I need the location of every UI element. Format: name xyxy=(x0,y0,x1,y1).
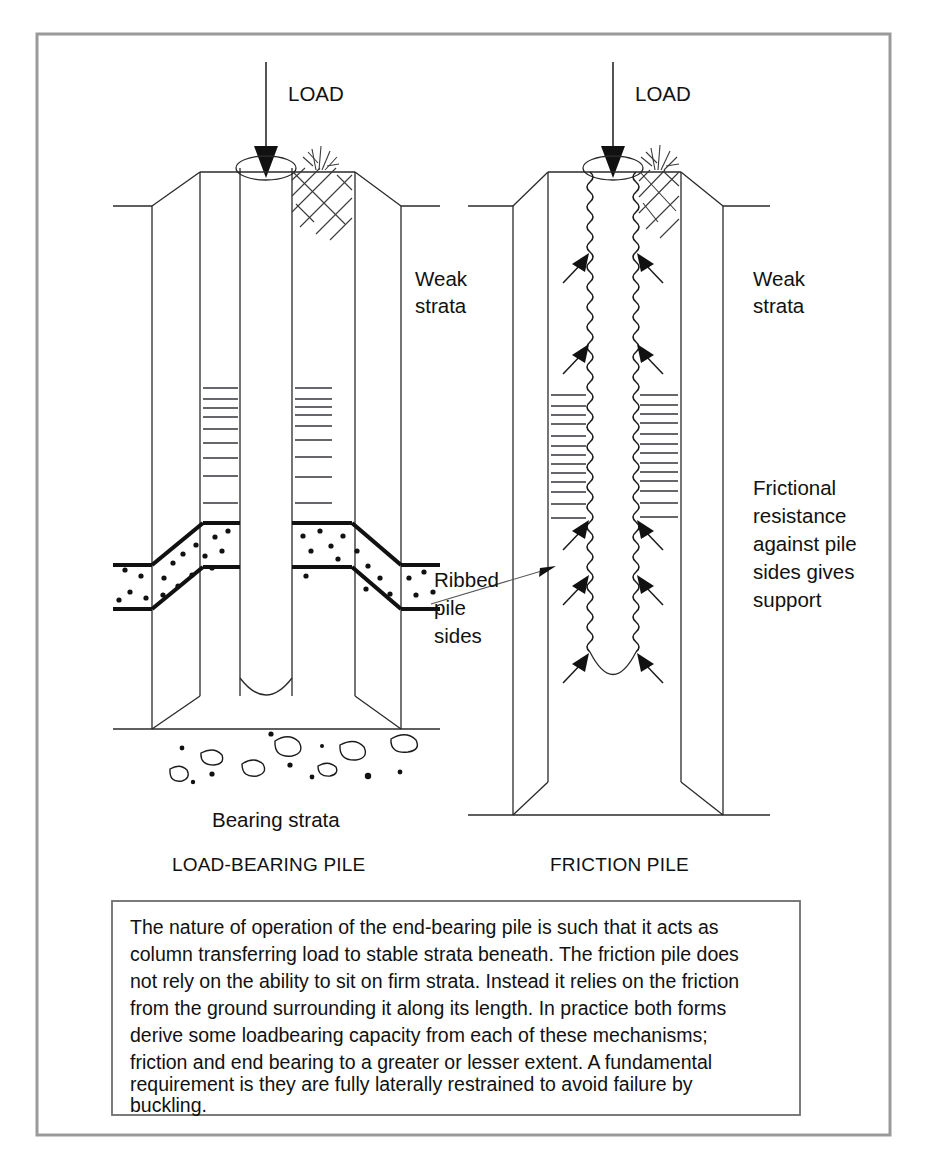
bearing-strata-label: Bearing strata xyxy=(212,808,340,831)
caption-line-2: column transferring load to stable strat… xyxy=(130,943,739,965)
pile-diagram-svg: LOAD xyxy=(0,0,925,1162)
caption-line-7: requirement is they are fully laterally … xyxy=(130,1073,693,1095)
frictional-label-line2: resistance xyxy=(753,504,846,527)
ribbed-label-line3: sides xyxy=(434,624,482,647)
frictional-label-line1: Frictional xyxy=(753,476,836,499)
caption-line-6: friction and end bearing to a greater or… xyxy=(130,1051,712,1073)
caption-line-5: derive some loadbearing capacity from ea… xyxy=(130,1024,708,1046)
ribbed-label-line2: pile xyxy=(434,596,466,619)
caption-line-4: from the ground surrounding it along its… xyxy=(130,997,726,1019)
figure-root: LOAD xyxy=(0,0,925,1162)
caption-line-3: not rely on the ability to sit on firm s… xyxy=(130,970,739,992)
frictional-label-line5: support xyxy=(753,588,822,611)
friction-pile-caption: FRICTION PILE xyxy=(550,854,689,875)
weak-strata-label-right-line2: strata xyxy=(753,294,805,317)
frictional-label-line4: sides gives xyxy=(753,560,854,583)
load-label-right: LOAD xyxy=(635,82,691,105)
frictional-label-line3: against pile xyxy=(753,532,857,555)
caption-line-8: buckling. xyxy=(130,1094,207,1116)
caption-line-1: The nature of operation of the end-beari… xyxy=(130,916,719,938)
weak-strata-label-left-line1: Weak xyxy=(415,267,468,290)
ribbed-label-line1: Ribbed xyxy=(434,568,499,591)
weak-strata-label-right-line1: Weak xyxy=(753,267,806,290)
weak-strata-label-left-line2: strata xyxy=(415,294,467,317)
load-bearing-pile-caption: LOAD-BEARING PILE xyxy=(172,854,365,875)
load-label-left: LOAD xyxy=(288,82,344,105)
